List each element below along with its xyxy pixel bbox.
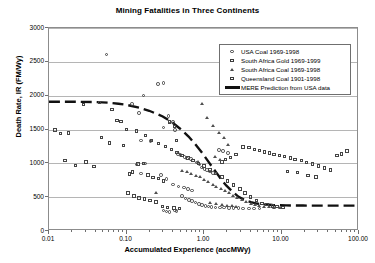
data-point-circle [130, 102, 134, 106]
data-point-square [115, 119, 118, 122]
legend-item[interactable]: South Africa Gold 1969-1999 [223, 56, 347, 65]
line-marker-icon [223, 86, 241, 88]
data-point-square [229, 156, 232, 159]
data-point-circle [171, 183, 175, 187]
data-point-square [220, 160, 223, 163]
data-point-triangle [180, 169, 184, 172]
data-point-square [255, 199, 258, 202]
x-tick-label: 0.01 [28, 235, 68, 242]
x-tick-mark-minor [354, 230, 355, 232]
data-point-square [232, 183, 235, 186]
data-point-circle [156, 82, 160, 86]
data-point-square [314, 175, 317, 178]
legend-label: South Africa Gold 1969-1999 [241, 57, 320, 65]
data-point-square [247, 146, 250, 149]
data-point-triangle [211, 124, 215, 127]
legend-item[interactable]: USA Coal 1969-1998 [223, 47, 347, 56]
data-point-square [241, 145, 244, 148]
x-tick-mark-minor [346, 230, 347, 232]
x-tick-mark-minor [327, 230, 328, 232]
data-point-square [317, 164, 320, 167]
data-point-triangle [218, 158, 222, 161]
data-point-circle [190, 189, 194, 193]
data-point-circle [168, 210, 172, 214]
data-point-square [249, 195, 252, 198]
triangle-marker-icon [223, 68, 241, 71]
data-point-square [148, 199, 151, 202]
data-point-square [122, 144, 125, 147]
chart-figure: Mining Fatalities in Three Continents De… [0, 0, 375, 263]
x-tick-mark-minor [317, 230, 318, 232]
x-tick-mark-minor [71, 230, 72, 232]
legend-item[interactable]: MERE Prediction from USA data [223, 83, 347, 92]
data-point-square [208, 168, 211, 171]
gridline [49, 28, 357, 29]
gridline [49, 96, 357, 97]
data-point-triangle [189, 172, 193, 175]
data-point-square [151, 176, 154, 179]
data-point-square [157, 177, 160, 180]
x-tick-label: 0.10 [106, 235, 146, 242]
x-tick-mark-minor [263, 230, 264, 232]
x-tick-mark-minor [118, 230, 119, 232]
x-tick-mark [203, 230, 204, 234]
data-point-square [202, 164, 205, 167]
data-point-square [150, 139, 153, 142]
data-point-square [281, 206, 284, 209]
legend-item[interactable]: Queensland Coal 1901-1998 [223, 74, 347, 83]
circle-marker-icon [223, 50, 241, 53]
y-tick-label: 0 [4, 227, 44, 234]
x-tick-mark-minor [350, 230, 351, 232]
data-point-circle [105, 53, 109, 57]
y-tick-label: 1500 [4, 125, 44, 132]
square-marker-icon [223, 77, 241, 80]
data-point-square [311, 162, 314, 165]
x-tick-mark-minor [304, 230, 305, 232]
data-point-circle [241, 207, 245, 211]
data-point-circle [217, 148, 221, 152]
data-point-square [286, 170, 289, 173]
data-point-circle [247, 207, 251, 211]
x-tick-mark-minor [102, 230, 103, 232]
data-point-triangle [225, 204, 229, 207]
data-point-square [186, 156, 189, 159]
data-point-square [154, 200, 157, 203]
data-point-square [272, 153, 275, 156]
data-point-circle [137, 111, 141, 115]
data-point-square [224, 158, 227, 161]
data-point-square [166, 206, 169, 209]
x-tick-mark-minor [335, 230, 336, 232]
x-tick-mark-minor [268, 230, 269, 232]
data-point-square [296, 171, 299, 174]
data-point-circle [142, 94, 146, 98]
data-point-square [345, 149, 348, 152]
data-point-square [253, 148, 256, 151]
legend-item[interactable]: South Africa Coal 1969-1998 [223, 65, 347, 74]
x-tick-mark-minor [172, 230, 173, 232]
marker-glyph [230, 68, 234, 71]
data-point-square [144, 134, 147, 137]
data-point-square [125, 128, 128, 131]
data-point-circle [165, 177, 169, 181]
data-point-circle [214, 206, 218, 210]
data-point-square [119, 120, 122, 123]
data-point-triangle [206, 180, 210, 183]
data-point-square [170, 148, 173, 151]
data-point-triangle [217, 131, 221, 134]
data-point-square [132, 194, 135, 197]
data-point-circle [167, 114, 171, 118]
y-tick-label: 3000 [4, 24, 44, 31]
x-tick-mark-minor [277, 230, 278, 232]
x-tick-mark-minor [240, 230, 241, 232]
x-tick-mark-minor [341, 230, 342, 232]
data-point-triangle [154, 191, 158, 194]
data-point-square [329, 168, 332, 171]
data-point-circle [139, 172, 143, 176]
x-tick-mark [126, 230, 127, 234]
data-point-square [263, 150, 266, 153]
data-point-square [98, 101, 101, 104]
data-point-triangle [234, 205, 238, 208]
data-point-square [135, 129, 138, 132]
data-point-square [340, 152, 343, 155]
data-point-square [278, 154, 281, 157]
